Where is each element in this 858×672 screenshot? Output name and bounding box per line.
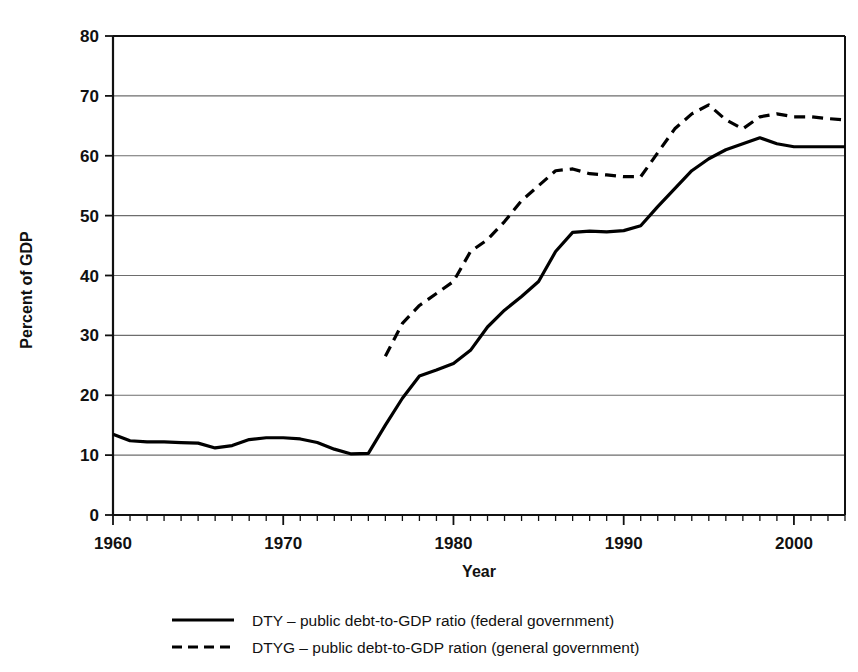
line-chart: 01020304050607080 19601970198019902000 P… [0, 0, 858, 672]
y-axis-tick-labels: 01020304050607080 [80, 27, 99, 525]
y-axis-title: Percent of GDP [18, 231, 35, 349]
x-tick-label: 1990 [605, 534, 643, 553]
x-tick-label: 1970 [264, 534, 302, 553]
chart-background [0, 0, 858, 672]
x-tick-label: 2000 [775, 534, 813, 553]
y-tick-label: 80 [80, 27, 99, 46]
y-tick-label: 30 [80, 326, 99, 345]
y-tick-label: 70 [80, 87, 99, 106]
legend-label-dty: DTY – public debt-to-GDP ratio (federal … [252, 612, 614, 629]
x-tick-label: 1960 [94, 534, 132, 553]
y-tick-label: 40 [80, 267, 99, 286]
x-tick-label: 1980 [435, 534, 473, 553]
y-tick-label: 50 [80, 207, 99, 226]
y-tick-label: 10 [80, 446, 99, 465]
x-axis-title: Year [462, 563, 496, 580]
y-tick-label: 60 [80, 147, 99, 166]
y-tick-label: 0 [90, 506, 99, 525]
y-tick-label: 20 [80, 386, 99, 405]
legend-label-dtyg: DTYG – public debt-to-GDP ration (genera… [252, 639, 639, 656]
chart-figure: 01020304050607080 19601970198019902000 P… [0, 0, 858, 672]
